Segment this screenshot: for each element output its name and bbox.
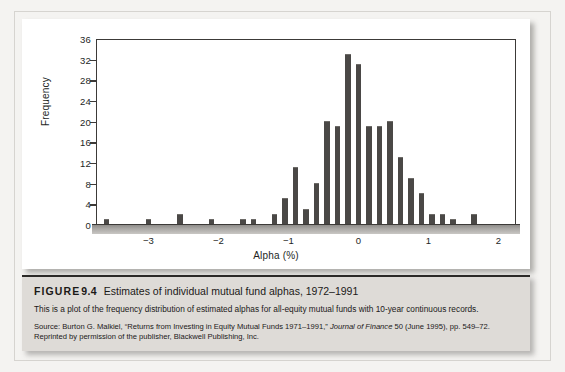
y-axis-tick-label: 4 bbox=[69, 200, 91, 209]
histogram-bar bbox=[303, 209, 309, 226]
y-axis-tick-label: 12 bbox=[69, 159, 91, 168]
histogram-bar bbox=[335, 126, 341, 225]
source-prefix: Source: Burton G. Malkiel, “Returns from… bbox=[34, 322, 330, 331]
x-axis-tick-label: 0 bbox=[346, 235, 372, 246]
figure-title: Estimates of individual mutual fund alph… bbox=[104, 285, 359, 297]
figure-label: FIGURE bbox=[34, 285, 80, 297]
y-axis-tick-label: 24 bbox=[69, 97, 91, 106]
histogram-bar bbox=[356, 64, 362, 225]
histogram-bar bbox=[282, 198, 288, 225]
y-axis-tick-label: 32 bbox=[69, 55, 91, 64]
histogram-chart: Frequency 04812162024283236 −3−2−1012 Al… bbox=[22, 19, 530, 269]
histogram-bar bbox=[314, 183, 320, 225]
scanned-page: Frequency 04812162024283236 −3−2−1012 Al… bbox=[0, 0, 565, 372]
y-axis-tick-mark bbox=[90, 163, 96, 164]
histogram-bar bbox=[345, 54, 351, 226]
y-axis-tick-mark bbox=[90, 184, 96, 185]
y-axis-tick-label: 16 bbox=[69, 138, 91, 147]
y-axis-title: Frequency bbox=[40, 42, 51, 162]
y-axis-tick-mark bbox=[90, 101, 96, 102]
y-axis-tick-label: 36 bbox=[69, 35, 91, 44]
histogram-bar bbox=[366, 126, 372, 225]
y-axis-tick-mark bbox=[90, 204, 96, 205]
x-axis-tick-label: 2 bbox=[486, 235, 512, 246]
x-axis-title: Alpha (%) bbox=[22, 250, 530, 261]
y-axis-tick-label: 0 bbox=[69, 221, 91, 230]
histogram-bar bbox=[398, 157, 404, 225]
y-axis-tick-mark bbox=[90, 80, 96, 81]
figure-chart-card: Frequency 04812162024283236 −3−2−1012 Al… bbox=[22, 19, 530, 269]
figure-source: Source: Burton G. Malkiel, “Returns from… bbox=[34, 322, 518, 342]
bars-layer bbox=[96, 39, 516, 225]
y-axis-tick-label: 8 bbox=[69, 179, 91, 188]
figure-heading: FIGURE9.4Estimates of individual mutual … bbox=[34, 285, 518, 297]
histogram-bar bbox=[324, 121, 330, 225]
y-axis-tick-label: 28 bbox=[69, 76, 91, 85]
figure-description: This is a plot of the frequency distribu… bbox=[34, 304, 518, 315]
histogram-bar bbox=[419, 193, 425, 225]
histogram-bar bbox=[387, 121, 393, 225]
histogram-bar bbox=[293, 167, 299, 225]
x-axis-base-band bbox=[92, 225, 520, 234]
y-axis-tick-mark bbox=[90, 142, 96, 143]
caption-top-rule bbox=[22, 275, 530, 277]
y-axis-tick-label: 20 bbox=[69, 117, 91, 126]
figure-caption-card: FIGURE9.4Estimates of individual mutual … bbox=[22, 275, 530, 351]
histogram-bar bbox=[408, 178, 414, 226]
figure-number: 9.4 bbox=[81, 285, 97, 297]
x-axis-tick-label: −3 bbox=[136, 235, 162, 246]
y-axis-tick-mark bbox=[90, 122, 96, 123]
histogram-bar bbox=[377, 126, 383, 225]
y-axis-tick-mark bbox=[90, 60, 96, 61]
x-axis-tick-label: 1 bbox=[416, 235, 442, 246]
x-axis-tick-label: −2 bbox=[206, 235, 232, 246]
source-journal-name: Journal of Finance bbox=[330, 322, 392, 331]
x-axis-tick-label: −1 bbox=[276, 235, 302, 246]
